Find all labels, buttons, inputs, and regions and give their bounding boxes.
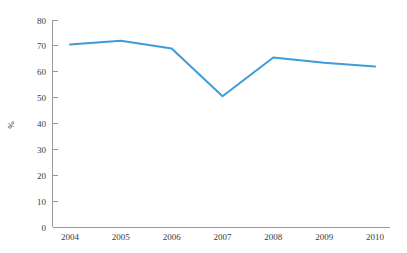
x-tick-label: 2006 <box>163 232 182 242</box>
x-tick-label: 2004 <box>61 232 80 242</box>
y-tick-label: 40 <box>37 119 47 129</box>
x-axis-tick-labels: 2004 2005 2006 2007 2008 2009 2010 <box>61 232 385 242</box>
y-tick-label: 30 <box>37 145 47 155</box>
x-tick-label: 2008 <box>264 232 283 242</box>
y-tick-label: 0 <box>42 223 47 233</box>
y-tick-label: 50 <box>37 93 47 103</box>
y-axis-title: % <box>6 121 16 129</box>
y-tick-label: 60 <box>37 67 47 77</box>
y-axis: 80 70 60 50 40 30 20 10 0 % <box>6 16 58 233</box>
x-tick-label: 2009 <box>315 232 334 242</box>
y-tick-label: 20 <box>37 171 47 181</box>
data-series-group <box>70 41 375 97</box>
y-axis-tick-labels: 80 70 60 50 40 30 20 10 0 <box>37 16 47 233</box>
chart-plot-area: 80 70 60 50 40 30 20 10 0 % 2004 2005 20… <box>0 0 407 253</box>
y-tick-label: 80 <box>37 16 47 26</box>
x-axis: 2004 2005 2006 2007 2008 2009 2010 <box>53 228 391 243</box>
y-tick-label: 10 <box>37 197 47 207</box>
y-axis-ticks <box>53 20 58 227</box>
x-tick-label: 2007 <box>214 232 233 242</box>
line-chart: 80 70 60 50 40 30 20 10 0 % 2004 2005 20… <box>0 0 407 253</box>
data-series-line <box>70 41 375 97</box>
x-tick-label: 2005 <box>112 232 131 242</box>
y-tick-label: 70 <box>37 41 47 51</box>
x-tick-label: 2010 <box>366 232 385 242</box>
